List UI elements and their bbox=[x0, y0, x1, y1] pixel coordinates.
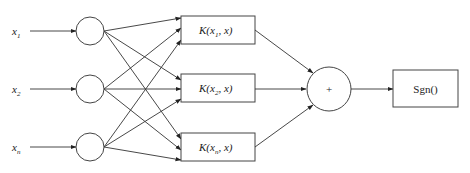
svm-network-diagram: x1 x2 xn K(x1, x) K(x2, x) K(xn, x) bbox=[0, 0, 470, 173]
input-label-x2: x2 bbox=[11, 83, 21, 98]
input-to-kernel-connections bbox=[104, 18, 181, 160]
kernel-box-n: K(xn, x) bbox=[181, 133, 255, 161]
kernel-to-sum-connections bbox=[255, 30, 313, 147]
input-label-x1: x1 bbox=[11, 25, 20, 40]
input-label-xn: xn bbox=[11, 141, 21, 156]
kernel-box-1: K(x1, x) bbox=[181, 16, 255, 44]
svg-text:Sgn(): Sgn() bbox=[413, 83, 438, 96]
svg-text:x1: x1 bbox=[11, 25, 20, 40]
kernel-box-2: K(x2, x) bbox=[181, 74, 255, 102]
sgn-output-box: Sgn() bbox=[393, 70, 458, 107]
input-node-2 bbox=[76, 75, 104, 103]
input-node-n bbox=[76, 133, 104, 161]
sum-node: + bbox=[307, 67, 351, 111]
svg-text:xn: xn bbox=[11, 141, 21, 156]
svg-text:x2: x2 bbox=[11, 83, 21, 98]
plus-symbol: + bbox=[326, 83, 332, 95]
input-node-1 bbox=[76, 17, 104, 45]
